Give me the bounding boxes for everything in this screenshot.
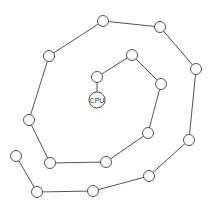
edge <box>49 21 103 56</box>
node-11 <box>191 64 202 75</box>
edge <box>37 191 93 192</box>
edge <box>106 133 148 162</box>
edge <box>149 140 189 176</box>
node-14 <box>88 186 99 197</box>
cpu-node: CPU <box>89 92 105 108</box>
edge <box>132 55 161 84</box>
edge <box>148 84 161 133</box>
nodes <box>11 16 202 198</box>
edge <box>160 27 196 69</box>
node-16 <box>11 151 22 162</box>
node-5 <box>101 157 112 168</box>
node-8 <box>44 51 55 62</box>
edge <box>93 176 149 191</box>
edge <box>16 156 37 192</box>
node-3 <box>156 79 167 90</box>
edge <box>29 120 50 163</box>
node-13 <box>144 171 155 182</box>
node-7 <box>24 115 35 126</box>
node-9 <box>98 16 109 27</box>
edge <box>97 55 132 77</box>
node-15 <box>32 187 43 198</box>
node-1 <box>92 72 103 83</box>
edge <box>50 162 106 163</box>
node-6 <box>45 158 56 169</box>
node-10 <box>155 22 166 33</box>
node-12 <box>184 135 195 146</box>
edge <box>103 21 160 27</box>
edge <box>29 56 49 120</box>
node-4 <box>143 128 154 139</box>
cpu-spiral-diagram: CPU <box>0 0 210 210</box>
node-2 <box>127 50 138 61</box>
edge <box>189 69 196 140</box>
cpu-label: CPU <box>90 97 105 104</box>
